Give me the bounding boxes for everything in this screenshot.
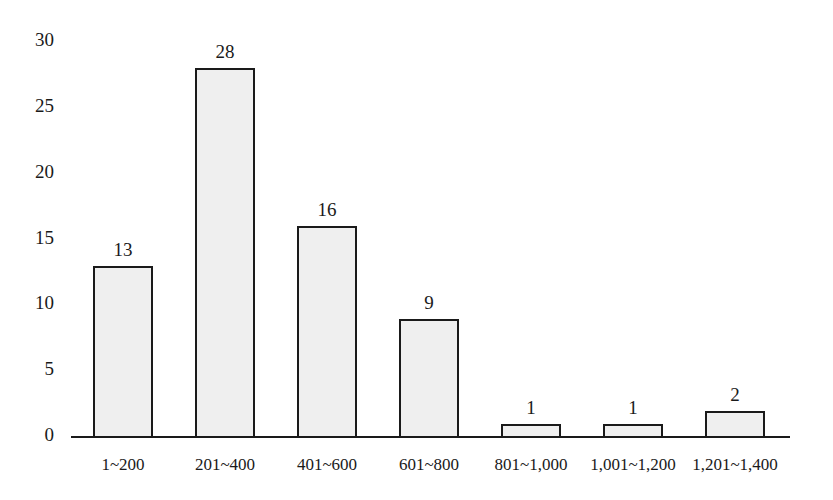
bar — [399, 319, 459, 438]
y-tick-label: 20 — [14, 162, 54, 182]
y-tick-label: 15 — [14, 228, 54, 248]
bar-value-label: 1 — [593, 398, 673, 418]
bar — [297, 226, 357, 437]
bar — [603, 424, 663, 437]
bar-value-label: 9 — [389, 293, 469, 313]
bar-value-label: 13 — [83, 240, 163, 260]
bar-value-label: 1 — [491, 398, 571, 418]
bar — [705, 411, 765, 437]
bar — [501, 424, 561, 437]
bar-value-label: 2 — [695, 385, 775, 405]
x-axis-line — [71, 436, 790, 438]
y-tick-label: 5 — [14, 359, 54, 379]
x-tick-label: 1,201~1,400 — [675, 455, 795, 475]
y-tick-label: 10 — [14, 293, 54, 313]
bar — [93, 266, 153, 437]
y-tick-label: 0 — [14, 425, 54, 445]
bar-chart: 051015202530 1328169112 1~200201~400401~… — [0, 0, 833, 500]
y-tick-label: 25 — [14, 96, 54, 116]
bar — [195, 68, 255, 437]
y-tick-label: 30 — [14, 30, 54, 50]
bar-value-label: 28 — [185, 42, 265, 62]
bar-value-label: 16 — [287, 200, 367, 220]
